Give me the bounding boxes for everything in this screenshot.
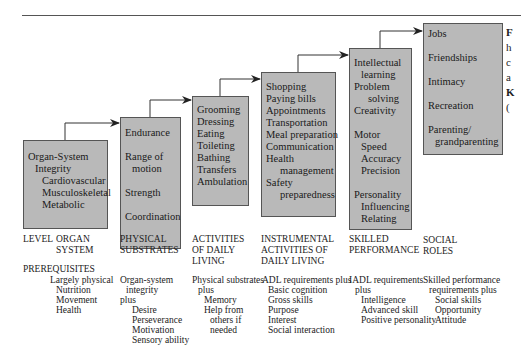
prereq-item: Perseverance [120, 315, 189, 325]
prereq-item: Opportunity [423, 305, 500, 315]
caption-fragment: h [506, 40, 521, 55]
box-item: Relating [354, 213, 407, 225]
prereq-item: Gross skills [262, 295, 351, 305]
level-name-line: DAILY LIVING [261, 256, 334, 267]
spacer [428, 112, 498, 124]
arrow-5 [380, 31, 422, 48]
spacer [125, 175, 176, 187]
box-item: Metabolic [28, 199, 103, 211]
box-item: Motor [354, 129, 407, 141]
box-item: Bathing [197, 152, 244, 164]
spacer [428, 64, 498, 76]
box-item: Musculoskeletal [28, 187, 103, 199]
box-item: motion [125, 163, 176, 175]
arrow-1 [65, 123, 119, 140]
prereq-item: requirements plus [423, 285, 500, 295]
prereq-item: Movement [50, 295, 113, 305]
box-item: Transfers [197, 164, 244, 176]
prereq-item: ADL requirements plus [262, 275, 351, 285]
prereq-item: Motivation [120, 325, 189, 335]
prereq-item: Basic cognition [262, 285, 351, 295]
prereq-item: Purpose [262, 305, 351, 315]
box-item: Range of [125, 151, 176, 163]
box-item: Integrity [28, 163, 103, 175]
box-item: Speed [354, 141, 407, 153]
level-name-line: SYSTEM [56, 245, 93, 256]
prereq-item: Memory [192, 295, 264, 305]
box-item: Creativity [354, 105, 407, 117]
level-name-line: SOCIAL [423, 235, 457, 246]
arrow-4 [298, 55, 348, 72]
box-item: Dressing [197, 116, 244, 128]
level-physical-substrates: PHYSICALSUBSTRATES [120, 234, 179, 256]
prereq-item: Skilled performance [423, 275, 500, 285]
figure-caption-fragment: FhcaK( [506, 25, 521, 115]
level-name-line: ACTIVITIES OF [261, 245, 334, 256]
box-item: Ambulation [197, 176, 244, 188]
arrow-3 [220, 79, 260, 96]
box-item: management [266, 165, 331, 177]
prereq-item: Largely physical [50, 275, 113, 285]
prereq-item: Help from [192, 305, 264, 315]
prereq-item: Social skills [423, 295, 500, 305]
prereq-item: Physical substrates [192, 275, 264, 285]
box-item: Intellectual [354, 57, 407, 69]
level-adl: ACTIVITIESOF DAILYLIVING [192, 234, 244, 267]
prereq-item: others if [192, 315, 264, 325]
box-instrumental-adl: ShoppingPaying billsAppointmentsTranspor… [261, 72, 336, 217]
box-item: Influencing [354, 201, 407, 213]
prereq-physical-substrates: Organ-systemintegrityplusDesirePersevera… [120, 275, 189, 345]
box-item: Friendships [428, 52, 498, 64]
caption-fragment: F [506, 25, 521, 40]
prereq-item: Attitude [423, 315, 500, 325]
prereq-item: Interest [262, 315, 351, 325]
level-iadl: INSTRUMENTALACTIVITIES OFDAILY LIVING [261, 234, 334, 267]
level-name-line: PERFORMANCE [349, 245, 419, 256]
box-item: Recreation [428, 100, 498, 112]
level-label: LEVEL [23, 234, 53, 245]
level-name-line: ORGAN [56, 234, 93, 245]
level-name-line: OF DAILY [192, 245, 244, 256]
box-item: learning [354, 69, 407, 81]
box-item: Transportation [266, 117, 331, 129]
box-social-roles: JobsFriendshipsIntimacyRecreationParenti… [423, 23, 503, 155]
box-item: Appointments [266, 105, 331, 117]
prereq-item: needed [192, 325, 264, 335]
box-item: Precision [354, 165, 407, 177]
prereq-item: Organ-system [120, 275, 189, 285]
caption-fragment: c [506, 55, 521, 70]
prereq-item: Health [50, 305, 113, 315]
box-activities-daily-living: GroomingDressingEatingToiletingBathingTr… [192, 96, 249, 206]
prereq-item: Nutrition [50, 285, 113, 295]
spacer [125, 139, 176, 151]
caption-fragment: ( [506, 100, 521, 115]
box-item: preparedness [266, 189, 331, 201]
prereq-item: Desire [120, 305, 189, 315]
level-name-line: PHYSICAL [120, 234, 179, 245]
prerequisites-label: PREREQUISITES [23, 264, 95, 275]
prereq-adl: Physical substratesplusMemoryHelp fromot… [192, 275, 264, 335]
box-item: solving [354, 93, 407, 105]
prereq-iadl: ADL requirements plusBasic cognitionGros… [262, 275, 351, 335]
prereq-item: plus [192, 285, 264, 295]
box-item: Cardiovascular [28, 175, 103, 187]
box-item: Coordination [125, 211, 176, 223]
box-item: Meal preparation [266, 129, 331, 141]
box-item: Safety [266, 177, 331, 189]
box-item: Grooming [197, 104, 244, 116]
spacer [428, 40, 498, 52]
box-item: Accuracy [354, 153, 407, 165]
prereq-item: Sensory ability [120, 335, 189, 345]
box-item: Health [266, 153, 331, 165]
caption-fragment: K [506, 85, 521, 100]
box-item: Personality [354, 189, 407, 201]
arrow-2 [150, 100, 191, 117]
level-name-line: SUBSTRATES [120, 245, 179, 256]
box-item: Intimacy [428, 76, 498, 88]
level-skilled-performance: SKILLEDPERFORMANCE [349, 234, 419, 256]
caption-fragment: a [506, 70, 521, 85]
level-organ-system: ORGANSYSTEM [56, 234, 93, 256]
box-physical-substrates: EnduranceRange ofmotionStrengthCoordinat… [120, 117, 181, 249]
box-item: Toileting [197, 140, 244, 152]
level-social-roles: SOCIALROLES [423, 235, 457, 257]
